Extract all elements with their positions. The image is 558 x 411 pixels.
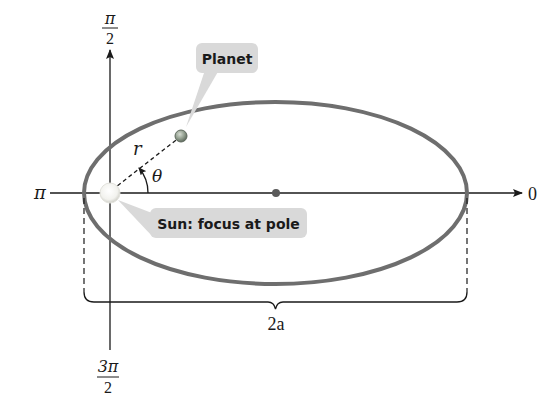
bottom-axis-label-numerator: 3π (98, 357, 119, 376)
right-axis-label: 0 (528, 184, 537, 204)
left-axis-label: π (33, 182, 47, 203)
ellipse-center-dot (272, 189, 280, 197)
polar-ellipse-diagram: Planet Sun: focus at pole r θ π 2 π 0 3π… (0, 0, 558, 411)
sun-icon (100, 183, 120, 203)
planet-callout-pointer (186, 70, 219, 127)
sun-callout-pointer (118, 200, 152, 236)
major-axis-brace (84, 292, 467, 309)
sun-label: Sun: focus at pole (157, 216, 300, 232)
planet-icon (175, 130, 187, 142)
top-axis-label-numerator: π (104, 9, 116, 28)
radius-label: r (133, 138, 143, 159)
angle-arc (139, 168, 148, 193)
major-axis-label: 2a (268, 314, 285, 334)
top-axis-label-denominator: 2 (106, 30, 114, 47)
angle-label: θ (152, 166, 162, 186)
bottom-axis-label-denominator: 2 (104, 379, 112, 396)
planet-label: Planet (202, 51, 253, 67)
